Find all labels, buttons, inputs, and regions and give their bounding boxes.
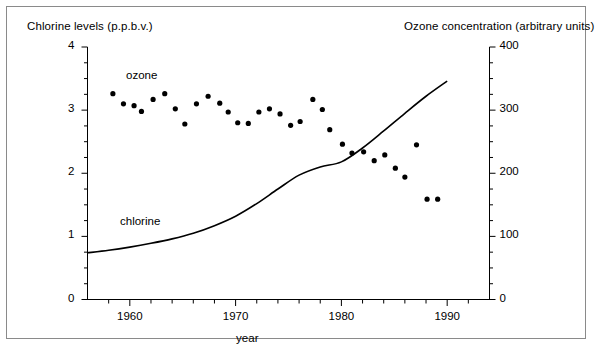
ozone-data-point (182, 121, 187, 126)
ytick-label-left-4: 4 (55, 39, 75, 51)
ozone-data-point (194, 101, 199, 106)
ozone-data-point (310, 97, 315, 102)
xtick-label-1990: 1990 (427, 310, 467, 322)
ozone-data-point (217, 101, 222, 106)
xtick-label-1980: 1980 (321, 310, 361, 322)
ytick-label-left-3: 3 (55, 102, 75, 114)
ytick-label-left-0: 0 (55, 292, 75, 304)
ozone-data-point (372, 158, 377, 163)
x-axis-ticks (109, 300, 469, 307)
ozone-data-point (150, 97, 155, 102)
left-axis-ticks (82, 47, 88, 300)
ytick-label-right-300: 300 (500, 102, 530, 114)
ozone-data-point (382, 152, 387, 157)
ozone-data-point (320, 107, 325, 112)
ozone-data-point (110, 91, 115, 96)
ozone-data-points (110, 91, 440, 202)
ozone-data-point (246, 121, 251, 126)
plot-area (0, 0, 596, 358)
ozone-data-point (349, 150, 354, 155)
ytick-label-left-1: 1 (55, 228, 75, 240)
ytick-label-left-2: 2 (55, 165, 75, 177)
ozone-data-point (340, 142, 345, 147)
ytick-label-right-200: 200 (500, 165, 530, 177)
ytick-label-right-400: 400 (500, 39, 530, 51)
ozone-data-point (235, 120, 240, 125)
ozone-data-point (131, 103, 136, 108)
ozone-data-point (298, 119, 303, 124)
xtick-label-1970: 1970 (216, 310, 256, 322)
ozone-data-point (206, 94, 211, 99)
axis-lines (88, 47, 491, 300)
ozone-data-point (402, 174, 407, 179)
ozone-data-point (256, 109, 261, 114)
ozone-data-point (361, 149, 366, 154)
ozone-data-point (414, 142, 419, 147)
ozone-data-point (267, 106, 272, 111)
right-axis-ticks (490, 47, 496, 300)
ozone-data-point (121, 101, 126, 106)
ozone-data-point (277, 111, 282, 116)
xtick-label-1960: 1960 (110, 310, 150, 322)
ozone-data-point (435, 197, 440, 202)
ozone-data-point (162, 91, 167, 96)
ozone-data-point (393, 166, 398, 171)
ozone-data-point (139, 109, 144, 114)
ozone-data-point (288, 123, 293, 128)
ozone-data-point (424, 197, 429, 202)
ytick-label-right-0: 0 (500, 292, 530, 304)
ytick-label-right-100: 100 (500, 228, 530, 240)
ozone-data-point (226, 109, 231, 114)
chart-figure: Chlorine levels (p.p.b.v.) Ozone concent… (0, 0, 596, 358)
ozone-data-point (327, 127, 332, 132)
ozone-data-point (173, 106, 178, 111)
